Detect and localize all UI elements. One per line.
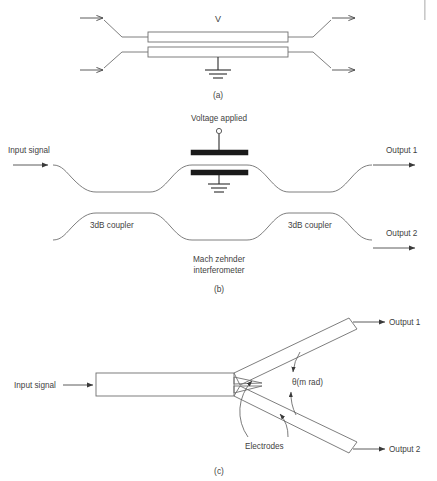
figure-svg: V <box>0 0 437 481</box>
panel-b-caption: (b) <box>214 284 224 294</box>
panel-c-electrodes-label: Electrodes <box>245 442 284 451</box>
figure-container: V <box>0 0 437 481</box>
panel-b-electrode-bottom <box>191 170 248 175</box>
panel-a-voltage-label: V <box>215 14 221 24</box>
panel-b-coupler-right-label: 3dB coupler <box>288 221 332 230</box>
panel-b-terminal-icon <box>216 128 221 133</box>
panel-c-output-2-label: Output 2 <box>389 445 421 454</box>
panel-b-output-2-label: Output 2 <box>386 229 418 238</box>
panel-a-input-bend-top <box>104 20 148 37</box>
panel-b: Voltage applied Input signal <box>8 114 418 294</box>
panel-c: Input signal Output 1 Output 2 θ(m rad) <box>14 318 421 476</box>
page-edge-mark <box>424 0 426 20</box>
waveguide-upper <box>148 32 288 42</box>
panel-c-input-waveguide <box>96 373 234 396</box>
panel-b-input-label: Input signal <box>8 146 50 155</box>
panel-a-ground-icon <box>205 57 231 78</box>
panel-c-input-label: Input signal <box>14 381 56 390</box>
panel-c-output-1-label: Output 1 <box>389 318 421 327</box>
panel-b-interferometer-label-line1: Mach zehnder <box>193 255 245 264</box>
panel-a-output-bend-bottom <box>288 52 331 68</box>
panel-b-electrode-top <box>191 150 248 155</box>
panel-c-angle-label: θ(m rad) <box>292 378 323 387</box>
panel-a: V <box>80 14 355 100</box>
panel-c-angle-arc-upper <box>293 352 300 372</box>
panel-c-electrode-leader-lower <box>280 414 288 437</box>
panel-b-interferometer-label-line2: interferometer <box>194 266 245 275</box>
panel-b-coupler-left-label: 3dB coupler <box>90 221 134 230</box>
panel-a-caption: (a) <box>213 90 223 100</box>
panel-b-voltage-label: Voltage applied <box>191 114 247 123</box>
panel-c-caption: (c) <box>214 466 224 476</box>
panel-c-branch-upper <box>234 318 357 385</box>
panel-a-input-bend-bottom <box>104 52 148 68</box>
panel-b-output-1-label: Output 1 <box>386 146 418 155</box>
panel-a-output-bend-top <box>288 20 331 37</box>
waveguide-lower <box>148 47 288 57</box>
panel-b-ground-icon <box>208 175 230 192</box>
